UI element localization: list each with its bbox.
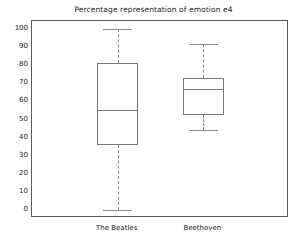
y-tick-label-10: 10 (4, 187, 28, 195)
y-tick-label-100: 100 (4, 24, 28, 32)
y-tick-label-20: 20 (4, 169, 28, 177)
y-tick-label-70: 70 (4, 78, 28, 86)
x-tick-label-beethoven: Beethoven (183, 224, 221, 232)
y-tick-label-90: 90 (4, 42, 28, 50)
y-tick-label-30: 30 (4, 151, 28, 159)
plot-area (31, 20, 288, 217)
median-line (183, 89, 224, 90)
y-tick-label-40: 40 (4, 133, 28, 141)
lower-whisker-cap (189, 130, 218, 131)
chart-title: Percentage representation of emotion e4 (0, 5, 307, 14)
y-tick-label-50: 50 (4, 115, 28, 123)
y-tick-label-80: 80 (4, 60, 28, 68)
x-tick-label-the-beatles: The Beatles (96, 224, 137, 232)
upper-whisker (203, 44, 204, 77)
box-plot-beethoven (32, 21, 287, 216)
upper-whisker-cap (189, 44, 218, 45)
y-tick-label-60: 60 (4, 96, 28, 104)
box-iqr (183, 78, 224, 115)
boxplot-figure: Percentage representation of emotion e4 … (0, 0, 307, 244)
y-tick-label-0: 0 (4, 205, 28, 213)
lower-whisker (203, 115, 204, 130)
